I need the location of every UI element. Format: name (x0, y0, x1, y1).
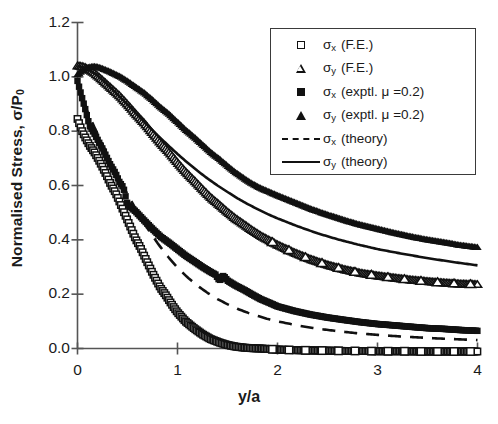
legend-item: σy(exptl. μ =0.2) (271, 104, 475, 128)
y-tick-label: 0.6 (18, 176, 70, 194)
x-tick-label: 2 (253, 361, 303, 379)
chart-legend: σx(F.E.)σy(F.E.)σx(exptl. μ =0.2)σy(expt… (270, 28, 476, 175)
y-tick-label: 1.2 (18, 13, 70, 31)
x-axis-label: y/a (0, 388, 498, 406)
x-tick-label: 1 (153, 361, 203, 379)
y-tick-label: 1.0 (18, 67, 70, 85)
legend-item: σx(theory) (271, 127, 475, 151)
x-tick-label: 4 (453, 361, 498, 379)
legend-description: (theory) (341, 131, 388, 146)
legend-symbol-subscript: y (331, 112, 336, 123)
legend-marker-filled-square-icon (279, 88, 323, 96)
legend-marker-solid-line-icon (279, 161, 323, 163)
x-tick-label: 0 (53, 361, 103, 379)
legend-item: σy(F.E.) (271, 57, 475, 81)
y-tick-label: 0.8 (18, 121, 70, 139)
legend-symbol-subscript: y (331, 159, 336, 170)
legend-symbol-subscript: x (331, 136, 336, 147)
y-tick-label: 0.0 (18, 339, 70, 357)
legend-item-label: σy(F.E.) (323, 60, 373, 76)
legend-item: σy(theory) (271, 151, 475, 175)
legend-marker-dashed-line-icon (279, 138, 323, 140)
legend-description: (exptl. μ =0.2) (341, 84, 424, 99)
y-tick-label: 0.2 (18, 284, 70, 302)
legend-description: (F.E.) (341, 60, 373, 75)
legend-item-label: σy(exptl. μ =0.2) (323, 107, 424, 123)
y-tick-label: 0.4 (18, 230, 70, 248)
legend-item-label: σx(F.E.) (323, 37, 373, 53)
legend-marker-open-square-icon (279, 41, 323, 49)
legend-description: (theory) (341, 154, 388, 169)
x-tick-label: 3 (353, 361, 403, 379)
legend-item-label: σx(theory) (323, 131, 388, 147)
legend-symbol-subscript: y (331, 65, 336, 76)
legend-item: σx(exptl. μ =0.2) (271, 80, 475, 104)
legend-item: σx(F.E.) (271, 33, 475, 57)
legend-symbol-subscript: x (331, 89, 336, 100)
chart-figure: Normalised Stress, σ/P0 y/a 0.00.20.40.6… (0, 0, 498, 424)
legend-item-label: σy(theory) (323, 154, 388, 170)
legend-marker-open-triangle-icon (279, 64, 323, 73)
legend-symbol-subscript: x (331, 42, 336, 53)
legend-marker-filled-triangle-icon (279, 111, 323, 120)
legend-description: (F.E.) (341, 37, 373, 52)
legend-description: (exptl. μ =0.2) (341, 107, 424, 122)
legend-item-label: σx(exptl. μ =0.2) (323, 84, 424, 100)
